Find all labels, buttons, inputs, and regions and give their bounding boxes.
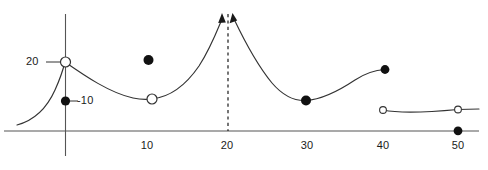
- curve-branch-one: [65, 19, 222, 99]
- x-tick-label-10: 10: [141, 139, 154, 151]
- curve-tail-segment: [383, 109, 479, 112]
- filled-dot-at-40-marker: [381, 65, 390, 74]
- x-tick-label-30: 30: [301, 139, 314, 151]
- filled-dot-at-30-marker: [301, 96, 311, 106]
- right-branch-arrow-icon: [230, 13, 238, 23]
- filled-dot-at-10-marker: [144, 55, 154, 65]
- x-tick-label-50: 50: [452, 139, 465, 151]
- x-tick-label-20: 20: [221, 139, 234, 151]
- function-graph-figure: 20 -10 10 20 30 40 50: [0, 0, 488, 170]
- curve-left-tail: [17, 62, 65, 125]
- filled-dot-at-0-marker: [61, 96, 70, 105]
- y-tick-label-20: 20: [26, 55, 39, 67]
- open-circle-at-50-marker: [455, 106, 462, 113]
- curve-branch-two: [234, 19, 385, 101]
- open-circle-at-0-marker: [61, 57, 71, 67]
- x-tick-label-40: 40: [377, 139, 390, 151]
- open-circle-at-10-marker: [147, 94, 157, 104]
- y-tick-label-minus-10: -10: [77, 94, 94, 106]
- filled-dot-at-50-axis-marker: [454, 126, 463, 135]
- left-branch-arrow-icon: [218, 13, 226, 23]
- open-circle-at-40-marker: [380, 107, 387, 114]
- plot-canvas: [0, 0, 488, 170]
